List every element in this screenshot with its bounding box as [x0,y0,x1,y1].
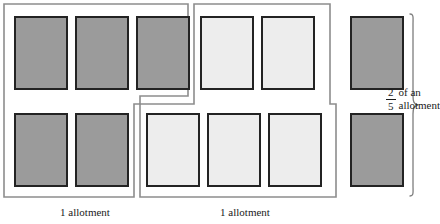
unit-cell [75,113,129,187]
unit-cell [207,113,261,187]
fraction-denominator: 5 [386,100,396,112]
unit-cell [14,16,68,90]
unit-cell [350,113,404,187]
unit-cell [268,113,322,187]
caption-left-allotment: 1 allotment [30,206,140,219]
unit-cell [350,16,404,90]
fraction-numerator: 2 [386,87,396,100]
fraction-label: 2 5 of an allotment [386,86,440,112]
fraction-label-text: of an allotment [399,86,440,112]
unit-cell [75,16,129,90]
fraction-two-fifths: 2 5 [386,87,396,112]
caption-right-allotment: 1 allotment [160,206,330,219]
unit-cell [14,113,68,187]
unit-cell [136,16,190,90]
unit-cell [146,113,200,187]
unit-cell [200,16,254,90]
unit-cell [261,16,315,90]
